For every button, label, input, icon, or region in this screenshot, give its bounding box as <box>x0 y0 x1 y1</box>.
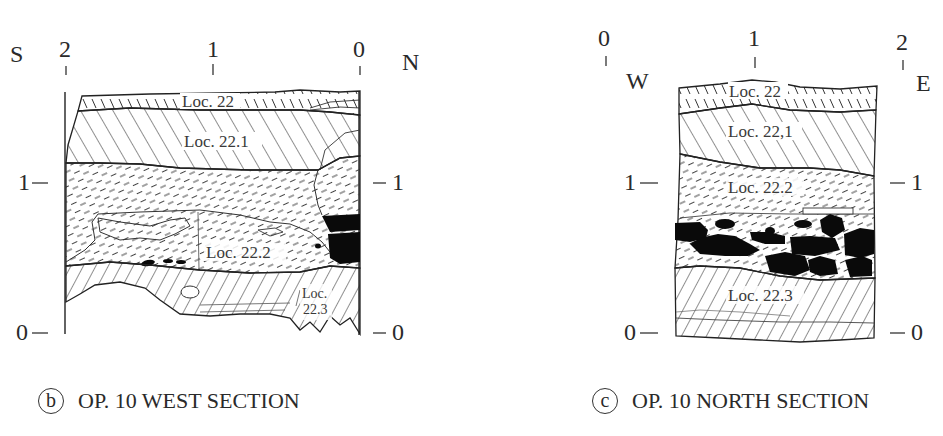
layer-label: Loc. 22.1 <box>184 132 249 151</box>
right-tick-label: 1 <box>911 169 923 195</box>
section-drawings: S N 2 1 0 1 0 1 0 <box>0 0 943 436</box>
layer-label: Loc. 22,1 <box>728 122 793 141</box>
north-section-figure: 0 1 2 W E 1 0 1 0 <box>598 25 931 345</box>
layer-label: Loc. <box>302 286 327 301</box>
left-tick-label: 0 <box>16 319 28 345</box>
right-tick-label: 0 <box>392 319 404 345</box>
layer-label: Loc. 22 <box>182 92 234 111</box>
figure-letter-badge: c <box>592 388 618 414</box>
left-tick-label: 1 <box>18 169 30 195</box>
layer-label: Loc. 22.2 <box>206 243 271 262</box>
caption-north-section: c OP. 10 NORTH SECTION <box>592 388 869 414</box>
direction-east: E <box>916 70 931 96</box>
direction-north: N <box>402 49 419 75</box>
layer-label: Loc. 22 <box>729 82 781 101</box>
right-tick-label: 1 <box>392 169 404 195</box>
top-tick-label: 0 <box>598 25 610 51</box>
figure-letter-badge: b <box>38 388 64 414</box>
layer-label: Loc. 22.2 <box>728 178 793 197</box>
direction-west: W <box>626 68 649 94</box>
caption-west-section: b OP. 10 WEST SECTION <box>38 388 300 414</box>
top-tick-label: 2 <box>896 29 908 55</box>
west-section-figure: S N 2 1 0 1 0 1 0 <box>10 36 419 345</box>
direction-south: S <box>10 41 23 67</box>
left-tick-label: 1 <box>624 169 636 195</box>
right-tick-label: 0 <box>911 319 923 345</box>
caption-text: OP. 10 NORTH SECTION <box>632 388 869 414</box>
left-tick-label: 0 <box>624 319 636 345</box>
layer-label-line2: 22.3 <box>303 302 328 317</box>
top-tick-label: 0 <box>353 36 365 62</box>
caption-text: OP. 10 WEST SECTION <box>78 388 300 414</box>
top-tick-label: 1 <box>748 25 760 51</box>
top-tick-label: 1 <box>207 36 219 62</box>
layer-label: Loc. 22.3 <box>728 286 793 305</box>
top-tick-label: 2 <box>59 36 71 62</box>
